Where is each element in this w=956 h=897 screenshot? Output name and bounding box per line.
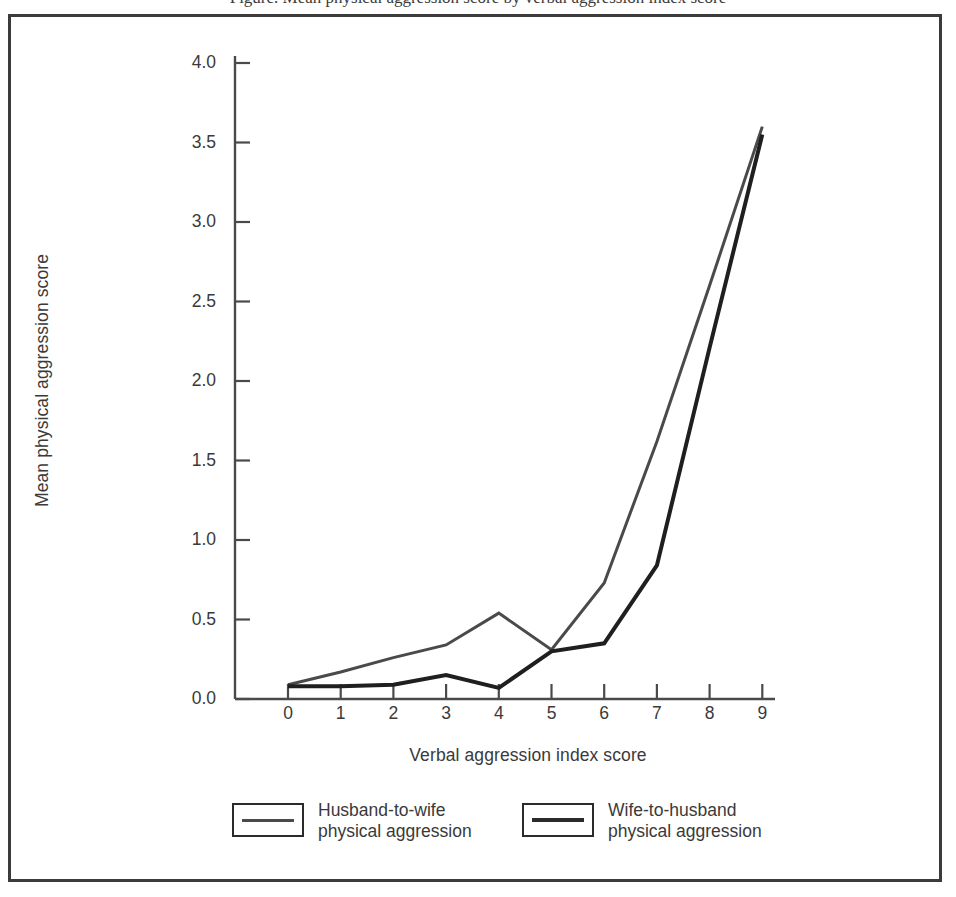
y-tick-label: 0.0 — [170, 688, 216, 709]
x-tick-label: 1 — [326, 703, 356, 724]
series-line-husband-to-wife — [288, 127, 762, 685]
legend-label-husband: Husband-to-wife physical aggression — [318, 800, 472, 843]
x-tick-label: 3 — [431, 703, 461, 724]
x-tick-label: 4 — [484, 703, 514, 724]
x-tick-label: 8 — [695, 703, 725, 724]
y-tick-label: 0.5 — [170, 609, 216, 630]
y-tick-label: 1.5 — [170, 450, 216, 471]
legend-label-wife: Wife-to-husband physical aggression — [608, 800, 762, 843]
chart-legend: Husband-to-wife physical aggression Wife… — [232, 800, 772, 862]
legend-label-husband-line1: Husband-to-wife — [318, 800, 472, 821]
y-tick-marks — [235, 63, 250, 699]
y-tick-label: 2.0 — [170, 370, 216, 391]
legend-swatch-box-husband — [232, 803, 304, 837]
y-tick-label: 3.0 — [170, 211, 216, 232]
x-tick-label: 9 — [747, 703, 777, 724]
y-tick-label: 3.5 — [170, 132, 216, 153]
legend-label-wife-line2: physical aggression — [608, 821, 762, 842]
y-tick-label: 4.0 — [170, 52, 216, 73]
x-tick-label: 5 — [537, 703, 567, 724]
legend-line-sample-husband — [242, 819, 294, 822]
x-tick-label: 7 — [642, 703, 672, 724]
legend-line-sample-wife — [532, 818, 584, 822]
legend-item-wife-to-husband[interactable]: Wife-to-husband physical aggression — [522, 800, 762, 843]
legend-item-husband-to-wife[interactable]: Husband-to-wife physical aggression — [232, 800, 472, 843]
y-tick-label: 1.0 — [170, 529, 216, 550]
y-tick-label: 2.5 — [170, 291, 216, 312]
y-axis-title: Mean physical aggression score — [32, 221, 53, 541]
x-tick-label: 6 — [589, 703, 619, 724]
x-tick-label: 2 — [378, 703, 408, 724]
legend-label-wife-line1: Wife-to-husband — [608, 800, 762, 821]
chart-page: Figure. Mean physical aggression score b… — [0, 0, 956, 897]
x-axis-title: Verbal aggression index score — [288, 745, 768, 766]
legend-label-husband-line2: physical aggression — [318, 821, 472, 842]
legend-swatch-box-wife — [522, 803, 594, 837]
x-tick-label: 0 — [273, 703, 303, 724]
series-line-wife-to-husband — [288, 135, 762, 688]
